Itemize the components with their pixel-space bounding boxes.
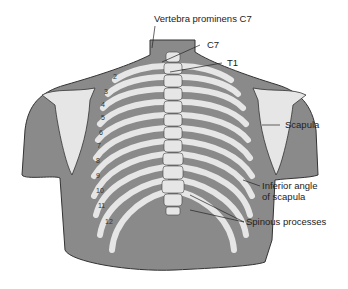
svg-text:7: 7 <box>97 142 101 149</box>
label-spinous-processes: Spinous processes <box>246 217 326 227</box>
svg-text:4: 4 <box>101 101 105 108</box>
thorax-diagram: 2 3 4 5 6 7 8 9 10 11 12 <box>0 0 348 289</box>
label-scapula: Scapula <box>285 120 319 130</box>
label-inferior-angle-line2: of scapula <box>262 192 305 202</box>
svg-text:5: 5 <box>101 114 105 121</box>
svg-text:3: 3 <box>104 88 108 95</box>
label-c7: C7 <box>207 40 219 50</box>
svg-text:6: 6 <box>99 129 103 136</box>
svg-text:9: 9 <box>96 172 100 179</box>
svg-text:8: 8 <box>96 157 100 164</box>
svg-text:12: 12 <box>105 218 113 225</box>
label-t1: T1 <box>227 58 238 68</box>
svg-text:10: 10 <box>96 187 104 194</box>
spinal-column <box>162 52 184 215</box>
label-vertebra-prominens: Vertebra prominens C7 <box>154 14 252 24</box>
label-inferior-angle-line1: Inferior angle <box>262 181 317 191</box>
svg-text:2: 2 <box>113 73 117 80</box>
svg-text:11: 11 <box>98 202 105 209</box>
